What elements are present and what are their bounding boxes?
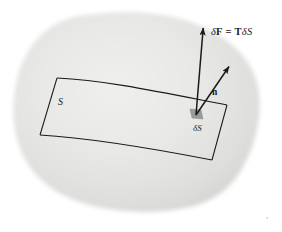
body-blob (13, 12, 259, 212)
corner-mark: • (266, 215, 268, 221)
figure-container: δF = TδS n δS S • (0, 0, 282, 232)
diagram-canvas (0, 0, 282, 232)
